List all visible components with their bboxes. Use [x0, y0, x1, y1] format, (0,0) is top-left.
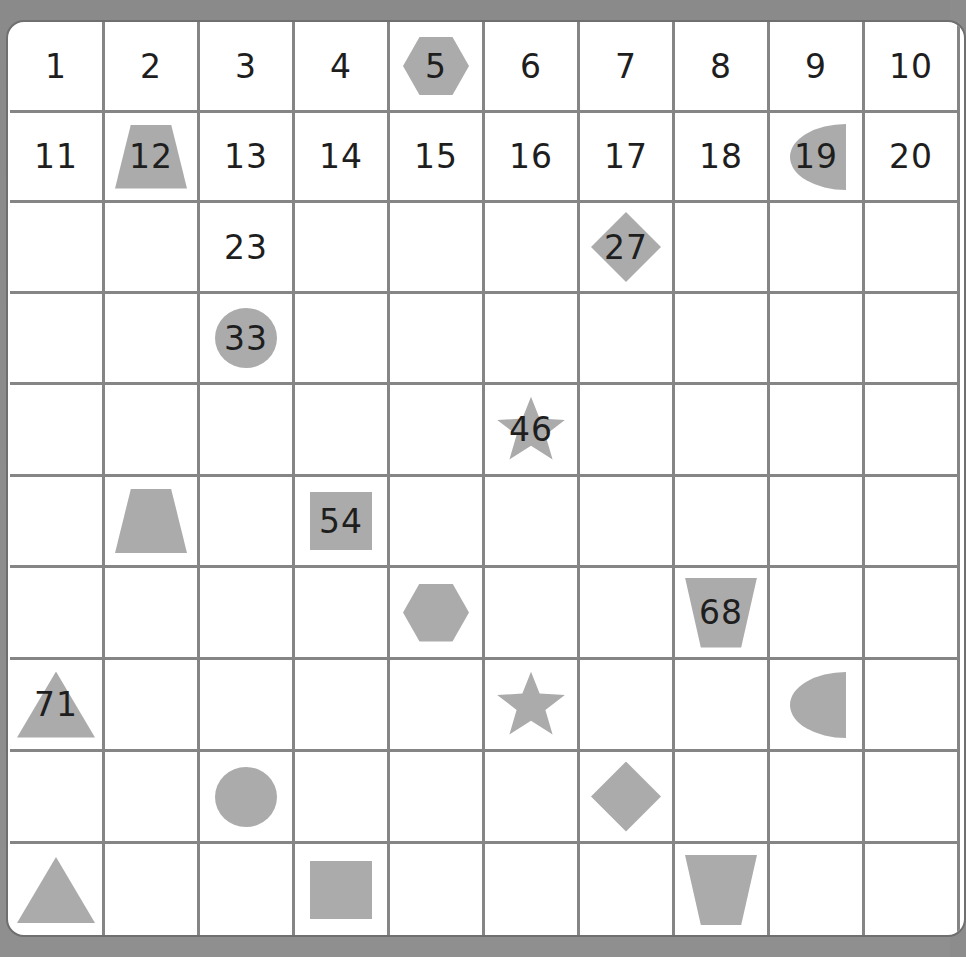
grid-cell-8: 8 — [675, 22, 770, 113]
grid-cell-29 — [770, 203, 865, 294]
grid-cell-67 — [580, 568, 675, 660]
grid-cell-44 — [295, 385, 390, 477]
cell-number: 16 — [509, 137, 553, 176]
grid-cell-12: 12 — [105, 113, 200, 203]
grid-cell-54: 54 — [295, 477, 390, 568]
grid-cell-11: 11 — [10, 113, 105, 203]
cell-number: 8 — [710, 47, 732, 86]
cell-number: 15 — [414, 137, 458, 176]
grid-cell-52 — [105, 477, 200, 568]
grid-cell-22 — [105, 203, 200, 294]
grid-cell-53 — [200, 477, 295, 568]
grid-cell-97 — [580, 844, 675, 936]
grid-cell-43 — [200, 385, 295, 477]
grid-cell-58 — [675, 477, 770, 568]
cell-number: 19 — [794, 137, 838, 176]
grid-cell-82 — [105, 752, 200, 844]
grid-cell-33: 33 — [200, 294, 295, 385]
cell-number: 9 — [805, 47, 827, 86]
cell-number: 4 — [330, 47, 352, 86]
grid-cell-50 — [865, 385, 960, 477]
cell-number: 5 — [425, 47, 447, 86]
grid-cell-26 — [485, 203, 580, 294]
grid-cell-69 — [770, 568, 865, 660]
grid-cell-35 — [390, 294, 485, 385]
grid-cell-84 — [295, 752, 390, 844]
grid-cell-24 — [295, 203, 390, 294]
grid-cell-4: 4 — [295, 22, 390, 113]
grid-cell-36 — [485, 294, 580, 385]
grid-cell-40 — [865, 294, 960, 385]
grid-cell-80 — [865, 660, 960, 752]
grid-cell-79 — [770, 660, 865, 752]
grid-cell-28 — [675, 203, 770, 294]
grid-cell-90 — [865, 752, 960, 844]
grid-cell-92 — [105, 844, 200, 936]
grid-cell-70 — [865, 568, 960, 660]
grid-cell-74 — [295, 660, 390, 752]
grid-cell-23: 23 — [200, 203, 295, 294]
grid-cell-65 — [390, 568, 485, 660]
trapezoid-icon — [115, 489, 187, 553]
grid-cell-15: 15 — [390, 113, 485, 203]
grid-cell-85 — [390, 752, 485, 844]
cell-number: 33 — [224, 319, 268, 358]
grid-cell-51 — [10, 477, 105, 568]
grid-cell-55 — [390, 477, 485, 568]
cell-number: 23 — [224, 228, 268, 267]
grid-cell-71: 71 — [10, 660, 105, 752]
grid-cell-83 — [200, 752, 295, 844]
grid-cell-95 — [390, 844, 485, 936]
grid-cell-78 — [675, 660, 770, 752]
cell-number: 18 — [699, 137, 743, 176]
grid-cell-20: 20 — [865, 113, 960, 203]
grid-cell-93 — [200, 844, 295, 936]
cell-number: 1 — [45, 47, 67, 86]
grid-cell-77 — [580, 660, 675, 752]
grid-cell-18: 18 — [675, 113, 770, 203]
grid-cell-61 — [10, 568, 105, 660]
grid-cell-38 — [675, 294, 770, 385]
cell-number: 3 — [235, 47, 257, 86]
grid-cell-42 — [105, 385, 200, 477]
grid-cell-96 — [485, 844, 580, 936]
grid-cell-19: 19 — [770, 113, 865, 203]
grid-cell-45 — [390, 385, 485, 477]
grid-cell-81 — [10, 752, 105, 844]
grid-cell-100 — [865, 844, 960, 936]
grid-cell-49 — [770, 385, 865, 477]
grid-cell-56 — [485, 477, 580, 568]
grid-cell-46: 46 — [485, 385, 580, 477]
cell-number: 27 — [604, 228, 648, 267]
grid-cell-32 — [105, 294, 200, 385]
grid-cell-7: 7 — [580, 22, 675, 113]
cell-number: 71 — [34, 685, 78, 724]
grid-cell-91 — [10, 844, 105, 936]
cell-number: 12 — [129, 137, 173, 176]
grid-cell-57 — [580, 477, 675, 568]
grid-cell-13: 13 — [200, 113, 295, 203]
grid-cell-48 — [675, 385, 770, 477]
cell-number: 17 — [604, 137, 648, 176]
grid-cell-39 — [770, 294, 865, 385]
grid-cell-37 — [580, 294, 675, 385]
grid-cell-68: 68 — [675, 568, 770, 660]
cell-number: 20 — [889, 137, 933, 176]
grid-cell-88 — [675, 752, 770, 844]
cell-number: 13 — [224, 137, 268, 176]
grid-cell-16: 16 — [485, 113, 580, 203]
grid-cell-3: 3 — [200, 22, 295, 113]
grid-cell-41 — [10, 385, 105, 477]
grid-cell-2: 2 — [105, 22, 200, 113]
grid-cell-94 — [295, 844, 390, 936]
grid-cell-86 — [485, 752, 580, 844]
square-icon — [310, 861, 372, 919]
grid-cell-59 — [770, 477, 865, 568]
grid-cell-17: 17 — [580, 113, 675, 203]
number-grid: 1234567891011121314151617181920232733465… — [10, 22, 960, 936]
grid-cell-30 — [865, 203, 960, 294]
grid-cell-27: 27 — [580, 203, 675, 294]
diamond-icon — [591, 762, 661, 832]
grid-cell-87 — [580, 752, 675, 844]
